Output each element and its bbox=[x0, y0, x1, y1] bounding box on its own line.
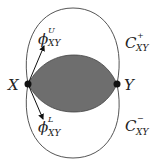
label-phi-l-sub: XY bbox=[47, 128, 61, 138]
label-phi-u-sup: U bbox=[48, 26, 55, 35]
shaded-lens-region bbox=[28, 55, 117, 112]
point-y bbox=[114, 81, 121, 88]
label-c-plus-sup: + bbox=[137, 31, 144, 40]
diagram-canvas: X Y ϕ U XY ϕ L XY C + XY C − XY bbox=[0, 0, 160, 167]
label-y: Y bbox=[124, 76, 136, 94]
label-phi-l-sup: L bbox=[47, 115, 53, 124]
label-c-plus-sub: XY bbox=[135, 43, 149, 53]
label-phi-l: ϕ bbox=[38, 118, 48, 136]
label-phi-u-sub: XY bbox=[47, 38, 61, 48]
label-x: X bbox=[7, 76, 20, 94]
label-c-minus-sup: − bbox=[137, 114, 144, 123]
label-c-minus-sub: XY bbox=[135, 127, 149, 137]
label-phi-u: ϕ bbox=[38, 30, 48, 48]
point-x bbox=[25, 81, 32, 88]
